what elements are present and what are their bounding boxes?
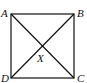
vertex-label-b: B bbox=[77, 7, 84, 19]
vertex-label-a: A bbox=[0, 7, 8, 19]
intersection-label-x: X bbox=[36, 52, 45, 64]
vertex-label-c: C bbox=[77, 72, 85, 83]
square-diagram: A B C D X bbox=[0, 0, 87, 83]
vertex-label-d: D bbox=[0, 72, 9, 83]
